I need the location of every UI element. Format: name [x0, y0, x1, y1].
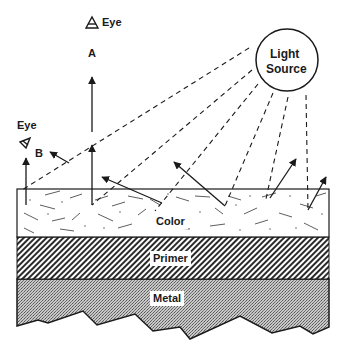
paint-layers-diagram: Eye A Eye B Light Source Color Primer Me… — [0, 0, 343, 353]
light-source-label-line1: Light — [270, 48, 299, 60]
eye-b-icon — [20, 138, 30, 148]
eye-a-label: Eye — [102, 17, 122, 28]
light-source-label-line2: Source — [266, 63, 307, 75]
observer-a-letter: A — [88, 48, 96, 59]
observer-b-letter: B — [35, 148, 43, 159]
eye-a-icon — [86, 17, 98, 28]
eye-b-label: Eye — [17, 120, 37, 131]
metal-layer — [17, 279, 329, 339]
metal-layer-label: Metal — [150, 291, 184, 306]
primer-layer-label: Primer — [150, 251, 191, 266]
color-layer-label: Color — [153, 214, 188, 229]
